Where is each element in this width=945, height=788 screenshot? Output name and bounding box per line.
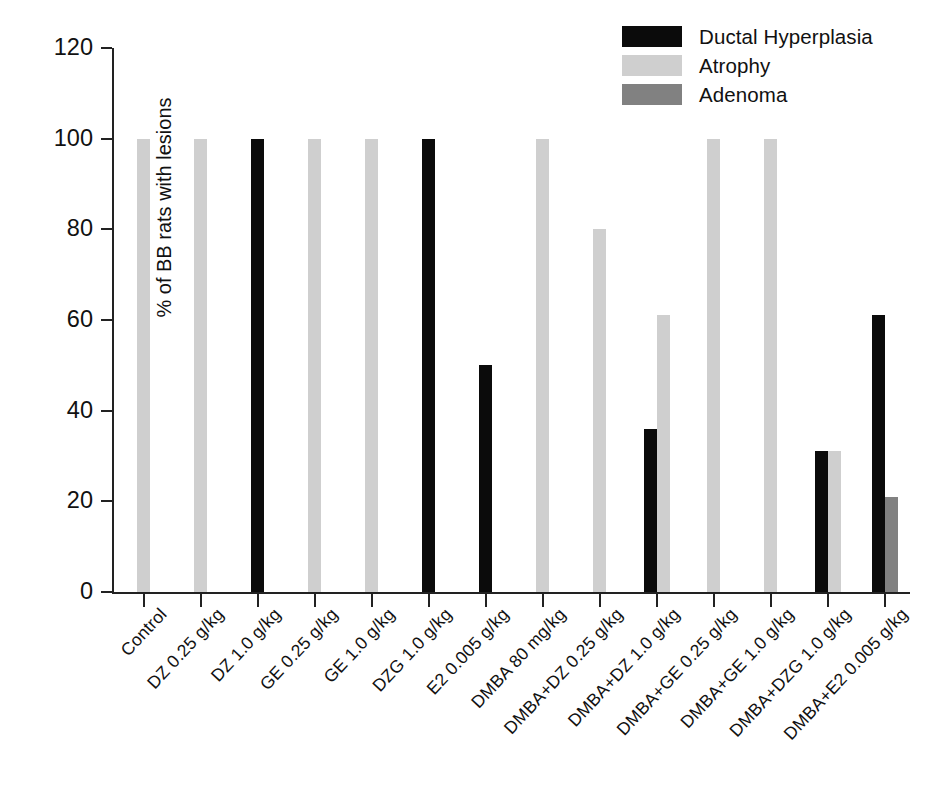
bar-atrophy-7 — [536, 139, 549, 592]
bar-group-4 — [365, 48, 378, 592]
bar-adenoma-13 — [885, 497, 898, 592]
bar-atrophy-1 — [194, 139, 207, 592]
bar-group-11 — [764, 48, 777, 592]
y-tick-100: 100 — [101, 138, 112, 140]
y-tick-label-100: 100 — [54, 125, 93, 152]
y-tick-80: 80 — [101, 228, 112, 230]
y-tick-40: 40 — [101, 410, 112, 412]
bar-group-1 — [194, 48, 207, 592]
bar-atrophy-4 — [365, 139, 378, 592]
bar-hyperplasia-6 — [479, 365, 492, 592]
bar-hyperplasia-5 — [422, 139, 435, 592]
bar-atrophy-0 — [137, 139, 150, 592]
bar-atrophy-11 — [764, 139, 777, 592]
bar-hyperplasia-13 — [872, 315, 885, 592]
bar-group-6 — [479, 48, 492, 592]
bar-group-7 — [536, 48, 549, 592]
y-tick-label-20: 20 — [67, 487, 93, 514]
bar-atrophy-8 — [593, 229, 606, 592]
bar-group-13 — [872, 48, 898, 592]
y-tick-label-0: 0 — [80, 578, 93, 605]
y-tick-label-40: 40 — [67, 397, 93, 424]
bar-atrophy-12 — [828, 451, 841, 592]
y-tick-60: 60 — [101, 319, 112, 321]
bar-group-8 — [593, 48, 606, 592]
bar-atrophy-10 — [707, 139, 720, 592]
y-tick-label-120: 120 — [54, 34, 93, 61]
bar-group-3 — [308, 48, 321, 592]
y-tick-0: 0 — [101, 591, 112, 593]
bar-group-2 — [251, 48, 264, 592]
bar-hyperplasia-9 — [644, 429, 657, 592]
bar-group-12 — [815, 48, 841, 592]
y-tick-label-80: 80 — [67, 215, 93, 242]
x-axis-line — [112, 592, 910, 594]
plot-area: 020406080100120 — [112, 48, 910, 592]
x-axis-labels: ControlDZ 0.25 g/kgDZ 1.0 g/kgGE 0.25 g/… — [112, 604, 910, 788]
legend-item-ductal-hyperplasia: Ductal Hyperplasia — [622, 22, 922, 51]
y-tick-20: 20 — [101, 500, 112, 502]
legend-label-ductal-hyperplasia: Ductal Hyperplasia — [699, 25, 873, 49]
bar-atrophy-9 — [657, 315, 670, 592]
bar-chart-figure: Ductal Hyperplasia Atrophy Adenoma % of … — [0, 0, 945, 788]
bar-group-5 — [422, 48, 435, 592]
bar-group-9 — [644, 48, 670, 592]
x-axis-label-0: Control — [116, 604, 171, 661]
bar-hyperplasia-2 — [251, 139, 264, 592]
y-tick-120: 120 — [101, 47, 112, 49]
bar-atrophy-3 — [308, 139, 321, 592]
bar-group-0 — [137, 48, 150, 592]
y-axis-line — [112, 48, 114, 593]
legend-swatch-ductal-hyperplasia — [622, 26, 682, 47]
y-tick-label-60: 60 — [67, 306, 93, 333]
bar-group-10 — [707, 48, 720, 592]
bar-hyperplasia-12 — [815, 451, 828, 592]
